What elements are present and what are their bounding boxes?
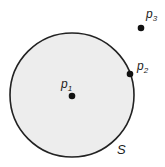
point-p1 bbox=[69, 93, 76, 100]
point-p2 bbox=[127, 71, 134, 78]
diagram-canvas: p1 p2 p3 S bbox=[0, 0, 165, 167]
label-p2: p2 bbox=[136, 59, 149, 75]
point-p3 bbox=[138, 25, 145, 32]
label-p3: p3 bbox=[145, 7, 158, 23]
label-s: S bbox=[117, 142, 126, 157]
